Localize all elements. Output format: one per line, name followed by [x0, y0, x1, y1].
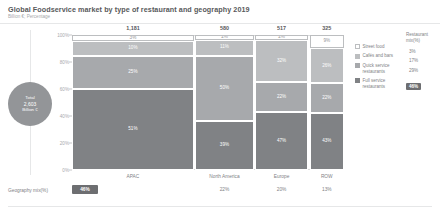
total-bubble: Total 2,603 Billion € — [8, 82, 52, 126]
y-axis: 100%80%60%40%20%0% — [48, 30, 72, 175]
legend-swatch-icon — [355, 78, 360, 83]
legend-item[interactable]: Full service restaurants — [355, 78, 403, 90]
geography-mix-label: Geography mix(%) — [8, 188, 48, 193]
x-axis-label: APAC — [72, 174, 194, 179]
legend-swatch-icon — [355, 63, 360, 68]
legend-item-label: Quick service restaurants — [363, 63, 404, 75]
geography-mix-value: 46% — [72, 185, 98, 194]
legend-item-label: Street food — [363, 44, 385, 50]
segment-value-label: 50% — [220, 86, 229, 91]
column-total-label: 517 — [255, 25, 308, 31]
legend-item[interactable]: Quick service restaurants — [355, 63, 403, 75]
total-bubble-unit: Billion € — [22, 107, 37, 113]
marimekko-column[interactable]: 9%26%22%43% — [310, 35, 344, 170]
y-axis-tick-label: 80% — [60, 60, 69, 65]
restaurant-mix-value: 46% — [406, 83, 421, 90]
marimekko-segment[interactable]: 22% — [255, 82, 308, 112]
marimekko-segment[interactable]: 26% — [310, 48, 344, 83]
segment-value-label: 11% — [220, 45, 229, 50]
segment-value-label: 47% — [277, 139, 286, 144]
restaurant-mix-header: Restaurant mix(%) — [406, 32, 438, 44]
segment-value-label: 26% — [322, 64, 331, 69]
legend-item-label: Full service restaurants — [363, 78, 404, 90]
marimekko-segment[interactable]: 51% — [72, 89, 194, 170]
marimekko-segment[interactable]: 10% — [72, 41, 194, 56]
page-title: Global Foodservice market by type of res… — [8, 5, 250, 14]
marimekko-segment[interactable]: 39% — [195, 121, 253, 170]
segment-value-label: 39% — [220, 143, 229, 148]
column-total-label: 1,181 — [72, 25, 194, 31]
header-divider — [0, 23, 440, 24]
restaurant-mix-value: 29% — [406, 67, 421, 74]
legend-item[interactable]: Street food — [355, 44, 403, 50]
y-axis-tick-label: 20% — [60, 141, 69, 146]
segment-value-label: 25% — [128, 70, 137, 75]
marimekko-segment[interactable]: 9% — [310, 35, 344, 48]
marimekko-segment[interactable]: 22% — [310, 83, 344, 113]
marimekko-segment[interactable]: 11% — [195, 40, 253, 56]
y-axis-tick-label: 60% — [60, 87, 69, 92]
restaurant-mix-value: 17% — [406, 57, 421, 64]
segment-value-label: 3% — [130, 36, 137, 41]
x-axis-label: ROW — [310, 174, 344, 179]
legend-swatch-icon — [355, 54, 360, 59]
segment-value-label: 43% — [322, 139, 331, 144]
footer-divider — [8, 206, 432, 207]
segment-value-label: 9% — [323, 39, 330, 44]
legend-swatch-icon — [355, 44, 360, 49]
geography-mix-value: 22% — [195, 185, 253, 194]
geography-mix-value: 20% — [255, 185, 308, 194]
column-total-label: 580 — [195, 25, 253, 31]
y-axis-tick-label: 40% — [60, 114, 69, 119]
column-total-label: 325 — [310, 25, 344, 31]
legend-item[interactable]: Cafés and bars — [355, 53, 403, 59]
x-axis-label: North America — [195, 174, 253, 179]
chart-page: Global Foodservice market by type of res… — [0, 0, 440, 212]
restaurant-mix-value: 3% — [406, 48, 419, 55]
segment-value-label: 22% — [277, 95, 286, 100]
marimekko-column[interactable]: 2%32%22%47% — [255, 35, 308, 170]
marimekko-segment[interactable]: 43% — [310, 113, 344, 170]
segment-value-label: 32% — [277, 59, 286, 64]
legend: Street foodCafés and barsQuick service r… — [355, 44, 403, 93]
page-subtitle: Billion €; Percentage — [8, 14, 50, 19]
marimekko-column[interactable]: 3%10%25%51% — [72, 35, 194, 170]
marimekko-segment[interactable]: 32% — [255, 40, 308, 83]
marimekko-segment[interactable]: 25% — [72, 56, 194, 90]
geography-mix-value: 13% — [310, 185, 344, 194]
x-axis-label: Europe — [255, 174, 308, 179]
marimekko-segment[interactable]: 50% — [195, 56, 253, 122]
segment-value-label: 10% — [128, 46, 137, 51]
legend-item-label: Cafés and bars — [363, 53, 394, 59]
marimekko-column[interactable]: 2%11%50%39% — [195, 35, 253, 170]
marimekko-plot: 3%10%25%51%1,1812%11%50%39%5802%32%22%47… — [72, 35, 344, 170]
y-axis-tick-label: 100% — [57, 33, 69, 38]
marimekko-segment[interactable]: 47% — [255, 112, 308, 170]
segment-value-label: 22% — [322, 96, 331, 101]
segment-value-label: 51% — [128, 127, 137, 132]
y-axis-tick-label: 0% — [62, 168, 69, 173]
